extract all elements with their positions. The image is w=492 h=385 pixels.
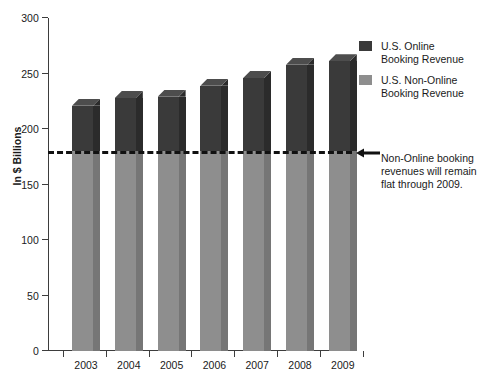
y-axis-tick-mark-250 — [42, 73, 48, 74]
legend-item-online[interactable]: U.S. Online Booking Revenue — [359, 40, 491, 65]
bar-segment-online-2008[interactable] — [286, 65, 307, 152]
bar-side-online — [221, 86, 228, 151]
bar-2003[interactable] — [72, 106, 100, 351]
legend-label-online-line1: U.S. Online — [381, 40, 491, 53]
bar-side-non-online — [350, 151, 357, 351]
legend-swatch-non-online — [359, 75, 372, 85]
bar-segment-online-2003[interactable] — [72, 106, 93, 152]
y-axis-tick-mark-100 — [42, 239, 48, 240]
bar-segment-online-2006[interactable] — [200, 86, 221, 151]
bar-side-non-online — [221, 151, 228, 351]
bar-segment-non-online-2004[interactable] — [115, 151, 136, 351]
bar-side-online — [136, 98, 143, 151]
bar-face-non-online — [72, 151, 93, 351]
chart-annotation: Non-Online booking revenues will remain … — [381, 152, 489, 190]
bar-side-non-online — [179, 151, 186, 351]
bar-side-non-online — [136, 151, 143, 351]
y-axis-tick-label-100: 100 — [0, 234, 48, 246]
y-axis-tick-mark-200 — [42, 128, 48, 129]
bar-face-non-online — [243, 151, 264, 351]
bar-side-online — [350, 61, 357, 151]
bar-segment-non-online-2008[interactable] — [286, 151, 307, 351]
bar-segment-online-2009[interactable] — [329, 61, 350, 151]
bar-segment-non-online-2009[interactable] — [329, 151, 350, 351]
bar-segment-online-2005[interactable] — [158, 97, 179, 151]
x-axis-tick-mark-2008 — [277, 351, 278, 357]
annotation-line3: flat through 2009. — [381, 178, 489, 191]
bar-face-online — [158, 97, 179, 151]
bar-side-non-online — [307, 151, 314, 351]
legend-label-non-online-line2: Booking Revenue — [381, 87, 491, 100]
legend-label-online-line2: Booking Revenue — [381, 53, 491, 66]
reference-line-dashed — [48, 151, 352, 154]
bar-side-online — [307, 65, 314, 152]
annotation-line1: Non-Online booking — [381, 152, 489, 165]
bar-face-online — [200, 86, 221, 151]
legend-swatch-online — [359, 41, 372, 51]
chart-root: 300250200150100500 In $ Billions 2003200… — [0, 0, 492, 385]
chart-legend: U.S. Online Booking Revenue U.S. Non-Onl… — [359, 40, 491, 108]
bar-segment-online-2004[interactable] — [115, 98, 136, 151]
bar-side-online — [93, 106, 100, 152]
bar-face-online — [115, 98, 136, 151]
bar-segment-non-online-2005[interactable] — [158, 151, 179, 351]
bar-face-non-online — [115, 151, 136, 351]
bar-side-non-online — [93, 151, 100, 351]
annotation-arrow-left-icon — [356, 145, 380, 163]
bar-face-online — [243, 78, 264, 151]
bar-side-online — [179, 97, 186, 151]
bar-segment-non-online-2003[interactable] — [72, 151, 93, 351]
x-axis-tick-mark-2005 — [149, 351, 150, 357]
bar-side-non-online — [264, 151, 271, 351]
bar-2004[interactable] — [115, 98, 143, 351]
y-axis-tick-mark-50 — [42, 295, 48, 296]
y-axis-tick-mark-300 — [42, 17, 48, 18]
y-axis-tick-label-200: 200 — [0, 123, 48, 135]
bar-face-non-online — [158, 151, 179, 351]
legend-item-non-online[interactable]: U.S. Non-Online Booking Revenue — [359, 74, 491, 99]
annotation-line2: revenues will remain — [381, 165, 489, 178]
y-axis-title: In $ Billions — [11, 101, 23, 211]
bar-2007[interactable] — [243, 78, 271, 351]
x-axis-tick-mark-2004 — [106, 351, 107, 357]
x-axis-tick-mark-2006 — [191, 351, 192, 357]
bar-2009[interactable] — [329, 61, 357, 351]
bar-face-non-online — [200, 151, 221, 351]
bar-face-non-online — [329, 151, 350, 351]
bar-face-non-online — [286, 151, 307, 351]
x-axis-tick-mark-2003 — [63, 351, 64, 357]
y-axis-tick-mark-0 — [42, 350, 48, 351]
x-axis-tick-mark-2007 — [234, 351, 235, 357]
x-axis-tick-label-2009: 2009 — [317, 359, 369, 371]
bar-2005[interactable] — [158, 97, 186, 351]
x-axis-tick-mark-2009 — [320, 351, 321, 357]
bar-face-online — [329, 61, 350, 151]
bar-segment-non-online-2006[interactable] — [200, 151, 221, 351]
y-axis-tick-label-300: 300 — [0, 12, 48, 24]
bar-2008[interactable] — [286, 65, 314, 351]
legend-label-non-online-line1: U.S. Non-Online — [381, 74, 491, 87]
y-axis-tick-label-0: 0 — [0, 345, 48, 357]
bar-segment-non-online-2007[interactable] — [243, 151, 264, 351]
y-axis-tick-label-50: 50 — [0, 290, 48, 302]
bar-2006[interactable] — [200, 86, 228, 351]
y-axis-tick-label-150: 150 — [0, 179, 48, 191]
bar-face-online — [72, 106, 93, 152]
y-axis-tick-mark-150 — [42, 184, 48, 185]
x-axis-tick-mark-end — [363, 351, 364, 357]
bar-face-online — [286, 65, 307, 152]
bar-segment-online-2007[interactable] — [243, 78, 264, 151]
y-axis-tick-label-250: 250 — [0, 68, 48, 80]
bar-side-online — [264, 78, 271, 151]
